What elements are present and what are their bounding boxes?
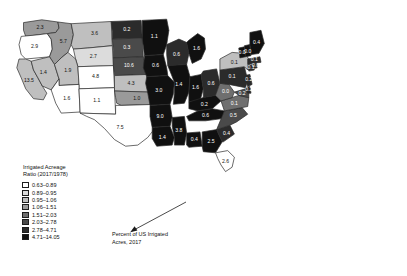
legend-swatch	[22, 204, 29, 210]
state-value-label-ut: 1.9	[64, 67, 71, 73]
legend-swatch	[22, 234, 29, 240]
annotation-line-2: Acres, 2017	[112, 239, 208, 247]
state-value-label-mt: 3.6	[91, 30, 98, 36]
legend-title-line2: Ratio (2017/1978)	[23, 171, 98, 178]
legend-label: 0.89–0.95	[32, 190, 56, 196]
state-value-label-oh: 0.6	[208, 80, 215, 86]
state-value-label-pa: 0.1	[229, 73, 236, 79]
legend-row: 0.63–0.89	[22, 181, 98, 188]
state-value-label-tn: 0.6	[202, 112, 209, 118]
legend-title-line1: Irrigated Acreage	[23, 164, 98, 171]
legend-label: 2.03–2.78	[32, 219, 56, 225]
legend-row: 2.03–2.78	[22, 219, 98, 226]
legend-swatch	[22, 212, 29, 218]
state-value-label-ma: 0.1	[251, 56, 258, 62]
legend-row: 4.71–14.05	[22, 233, 98, 240]
legend-row: 1.06–1.51	[22, 204, 98, 211]
state-value-label-ok: 1.0	[133, 95, 140, 101]
state-value-label-il: 1.4	[175, 81, 182, 87]
state-value-label-ar: 9.0	[156, 113, 163, 119]
state-value-label-id: 5.7	[60, 38, 67, 44]
state-value-label-ne: 10.6	[124, 62, 134, 68]
state-value-label-co: 4.8	[92, 73, 99, 79]
legend-row: 2.78–4.71	[22, 226, 98, 233]
legend-label: 4.71–14.05	[32, 234, 60, 240]
legend-swatch	[22, 182, 29, 188]
state-value-label-wy: 2.7	[90, 53, 97, 59]
annotation-line-1: Percent of US Irrigated	[112, 231, 208, 239]
state-value-label-fl: 2.6	[222, 158, 229, 164]
state-value-label-tx: 7.5	[116, 124, 123, 130]
state-value-label-ky: 0.2	[201, 101, 208, 107]
state-value-label-de: 0.2	[245, 86, 252, 92]
state-value-label-me: 0.4	[253, 39, 260, 45]
state-value-label-mi: 1.6	[193, 45, 200, 51]
legend-label: 0.63–0.89	[32, 182, 56, 188]
map-annotation: Percent of US Irrigated Acres, 2017	[112, 231, 208, 246]
state-value-label-la: 1.4	[159, 134, 166, 140]
state-value-label-or: 2.9	[31, 43, 38, 49]
state-value-label-va: 0.1	[231, 100, 238, 106]
legend-row: 1.51–2.03	[22, 211, 98, 218]
legend-swatch	[22, 190, 29, 196]
state-value-label-nj: 0.2	[245, 76, 252, 82]
state-value-label-sd: 0.3	[123, 44, 130, 50]
legend-row: 0.95–1.06	[22, 196, 98, 203]
state-value-label-sc: 0.4	[223, 130, 230, 136]
state-value-label-mn: 1.1	[151, 33, 158, 39]
legend-label: 0.95–1.06	[32, 197, 56, 203]
irrigated-acreage-map: 2.32.95.73.62.713.51.41.94.81.61.10.20.3…	[0, 0, 407, 276]
map-legend: Irrigated Acreage Ratio (2017/1978) 0.63…	[22, 164, 98, 241]
state-value-label-ga: 2.5	[208, 138, 215, 144]
legend-swatch	[22, 197, 29, 203]
state-value-label-ia: 0.6	[152, 62, 159, 68]
legend-label: 1.51–2.03	[32, 212, 56, 218]
state-value-label-al: 0.4	[191, 136, 198, 142]
legend-swatch	[22, 219, 29, 225]
legend-swatch	[22, 227, 29, 233]
legend-label: 2.78–4.71	[32, 227, 56, 233]
state-value-label-az: 1.6	[63, 95, 70, 101]
legend-row: 0.89–0.95	[22, 189, 98, 196]
state-value-label-nv: 1.4	[40, 69, 47, 75]
state-value-label-mo: 3.0	[155, 87, 162, 93]
state-value-label-wv: 0.0	[222, 88, 229, 94]
state-value-label-wi: 0.6	[173, 51, 180, 57]
state-value-label-nc: 0.5	[230, 112, 237, 118]
state-value-label-ms: 3.8	[175, 127, 182, 133]
state-value-label-ca: 13.5	[24, 77, 34, 83]
state-value-label-nm: 1.1	[93, 97, 100, 103]
state-value-label-nd: 0.2	[123, 26, 130, 32]
state-value-label-ri: 0.0	[252, 62, 259, 68]
state-value-label-nh: 0.0	[244, 48, 251, 54]
state-value-label-ny: 0.1	[231, 59, 238, 65]
state-value-label-in: 1.6	[192, 84, 199, 90]
state-value-label-wa: 2.3	[37, 24, 44, 30]
legend-title: Irrigated Acreage Ratio (2017/1978)	[23, 164, 98, 179]
legend-label: 1.06–1.51	[32, 204, 56, 210]
state-value-label-ks: 4.3	[128, 80, 135, 86]
